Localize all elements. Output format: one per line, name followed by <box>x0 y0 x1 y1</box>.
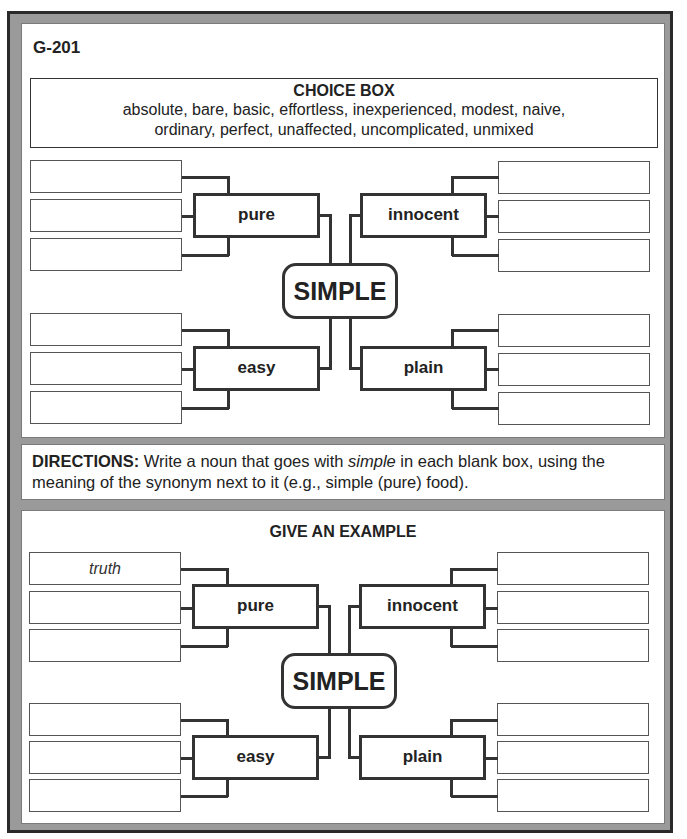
blank-box[interactable] <box>498 161 650 194</box>
connector-line <box>486 215 499 218</box>
choice-box: CHOICE BOX absolute, bare, basic, effort… <box>30 78 658 148</box>
connector-line <box>329 214 332 265</box>
connector-line <box>181 719 228 722</box>
blank-box[interactable] <box>30 313 182 346</box>
blank-box[interactable] <box>29 779 181 812</box>
directions-panel: DIRECTIONS: Write a noun that goes with … <box>21 444 665 500</box>
connector-line <box>486 368 499 371</box>
worksheet-code: G-201 <box>33 38 80 58</box>
connector-line <box>182 254 229 257</box>
blank-box[interactable] <box>29 741 181 774</box>
blank-box[interactable] <box>30 238 182 271</box>
directions-text-1: Write a noun that goes with <box>139 452 348 470</box>
connector-line <box>182 176 229 179</box>
connector-line <box>452 407 499 410</box>
synonym-box-innocent: innocent <box>360 193 487 238</box>
connector-line <box>349 318 352 370</box>
choice-box-title: CHOICE BOX <box>31 82 657 100</box>
connector-line <box>485 757 498 760</box>
connector-line <box>451 391 454 409</box>
connector-line <box>452 254 499 257</box>
blank-box[interactable] <box>498 314 650 347</box>
synonym-box-innocent: innocent <box>359 584 486 629</box>
connector-line <box>226 629 229 647</box>
synonym-box-plain: plain <box>360 346 487 391</box>
connector-line <box>328 605 331 656</box>
center-word: SIMPLE <box>282 263 398 319</box>
connector-line <box>451 795 498 798</box>
connector-line <box>452 329 499 332</box>
blank-box[interactable] <box>29 629 181 662</box>
directions-italic: simple <box>348 452 396 470</box>
connector-line <box>181 568 228 571</box>
synonym-box-easy: easy <box>193 346 320 391</box>
connector-line <box>227 238 230 256</box>
blank-box[interactable] <box>30 391 182 424</box>
blank-box[interactable] <box>30 352 182 385</box>
choice-box-words-line1: absolute, bare, basic, effortless, inexp… <box>31 100 657 120</box>
blank-box[interactable] <box>498 353 650 386</box>
connector-line <box>227 329 230 347</box>
connector-line <box>182 407 229 410</box>
connector-line <box>450 779 453 797</box>
connector-line <box>485 607 498 610</box>
connector-line <box>328 707 331 759</box>
connector-line <box>450 629 453 647</box>
blank-box[interactable] <box>497 703 649 736</box>
blank-box[interactable] <box>497 552 649 585</box>
connector-line <box>181 645 228 648</box>
connector-line <box>226 779 229 797</box>
blank-box[interactable]: truth <box>29 552 181 585</box>
connector-line <box>227 391 230 409</box>
synonym-box-pure: pure <box>193 193 320 238</box>
blank-box[interactable] <box>497 629 649 662</box>
connector-line <box>349 214 352 265</box>
synonym-box-pure: pure <box>192 584 319 629</box>
connector-line <box>329 318 332 370</box>
blank-box[interactable] <box>498 200 650 233</box>
connector-line <box>348 605 351 656</box>
blank-box[interactable] <box>29 591 181 624</box>
connector-line <box>452 176 499 179</box>
connector-line <box>348 707 351 759</box>
blank-box[interactable] <box>30 160 182 193</box>
synonym-box-plain: plain <box>359 735 486 780</box>
synonym-box-easy: easy <box>192 735 319 780</box>
connector-line <box>451 329 454 347</box>
connector-line <box>182 329 229 332</box>
blank-box[interactable] <box>498 392 650 425</box>
connector-line <box>181 795 228 798</box>
blank-box[interactable] <box>497 591 649 624</box>
connector-line <box>227 176 230 194</box>
blank-box[interactable] <box>30 199 182 232</box>
connector-line <box>451 719 498 722</box>
connector-line <box>451 568 498 571</box>
choice-box-words-line2: ordinary, perfect, unaffected, uncomplic… <box>31 120 657 140</box>
blank-box[interactable] <box>497 779 649 812</box>
center-word: SIMPLE <box>281 653 397 709</box>
give-example-title: GIVE AN EXAMPLE <box>22 523 664 541</box>
blank-box[interactable] <box>29 703 181 736</box>
blank-box[interactable] <box>498 239 650 272</box>
directions-label: DIRECTIONS: <box>32 452 139 470</box>
connector-line <box>451 176 454 194</box>
blank-box[interactable] <box>497 741 649 774</box>
connector-line <box>451 645 498 648</box>
connector-line <box>451 238 454 256</box>
